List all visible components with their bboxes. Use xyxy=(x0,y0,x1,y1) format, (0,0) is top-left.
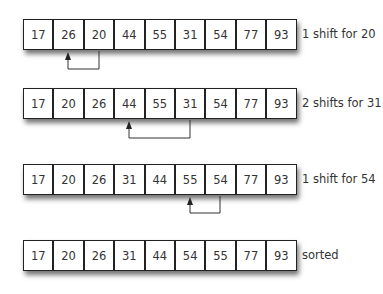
shift-arrow-icon xyxy=(126,120,190,138)
shift-arrow-icon xyxy=(187,196,220,213)
shift-arrows xyxy=(0,0,383,294)
shift-arrow-icon xyxy=(65,51,99,69)
